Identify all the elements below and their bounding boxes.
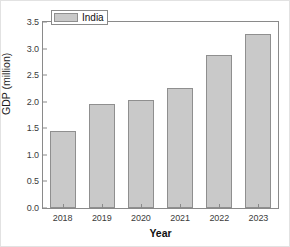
y-tick-label: 0.5 — [9, 176, 39, 186]
x-tick-mark — [141, 204, 142, 208]
x-tick-label-2019: 2019 — [92, 213, 112, 223]
y-tick-label: 2.0 — [9, 97, 39, 107]
x-tick-label-2018: 2018 — [53, 213, 73, 223]
x-tick-label-2022: 2022 — [209, 213, 229, 223]
legend-label-india: India — [82, 12, 104, 23]
y-tick-mark — [43, 101, 47, 102]
bar-2023 — [245, 34, 271, 208]
y-tick-label: 1.5 — [9, 123, 39, 133]
chart-legend: India — [51, 10, 108, 25]
bar-2022 — [206, 55, 232, 208]
y-tick-label: 3.5 — [9, 17, 39, 27]
x-tick-mark — [219, 204, 220, 208]
bar-2019 — [89, 104, 115, 208]
y-tick-mark — [43, 208, 47, 209]
chart-figure: GDP (million) 0.00.51.01.52.02.53.03.520… — [0, 0, 290, 247]
x-tick-mark — [63, 204, 64, 208]
x-tick-label-2021: 2021 — [170, 213, 190, 223]
x-tick-mark — [180, 204, 181, 208]
y-tick-label: 2.5 — [9, 70, 39, 80]
y-tick-mark — [43, 181, 47, 182]
y-tick-mark — [43, 75, 47, 76]
bar-2020 — [128, 100, 154, 208]
y-tick-label: 0.0 — [9, 203, 39, 213]
x-tick-label-2023: 2023 — [249, 213, 269, 223]
y-tick-mark — [43, 154, 47, 155]
x-tick-mark — [102, 204, 103, 208]
x-axis-label: Year — [42, 227, 279, 239]
x-tick-mark — [258, 204, 259, 208]
y-tick-mark — [43, 48, 47, 49]
y-tick-label: 3.0 — [9, 44, 39, 54]
x-tick-label-2020: 2020 — [131, 213, 151, 223]
y-tick-mark — [43, 128, 47, 129]
plot-area: 0.00.51.01.52.02.53.03.52018201920202021… — [43, 22, 278, 208]
legend-swatch-india — [54, 13, 78, 22]
y-tick-mark — [43, 22, 47, 23]
y-tick-label: 1.0 — [9, 150, 39, 160]
bar-2018 — [50, 131, 76, 208]
bar-2021 — [167, 88, 193, 208]
plot-frame: 0.00.51.01.52.02.53.03.52018201920202021… — [42, 21, 279, 209]
